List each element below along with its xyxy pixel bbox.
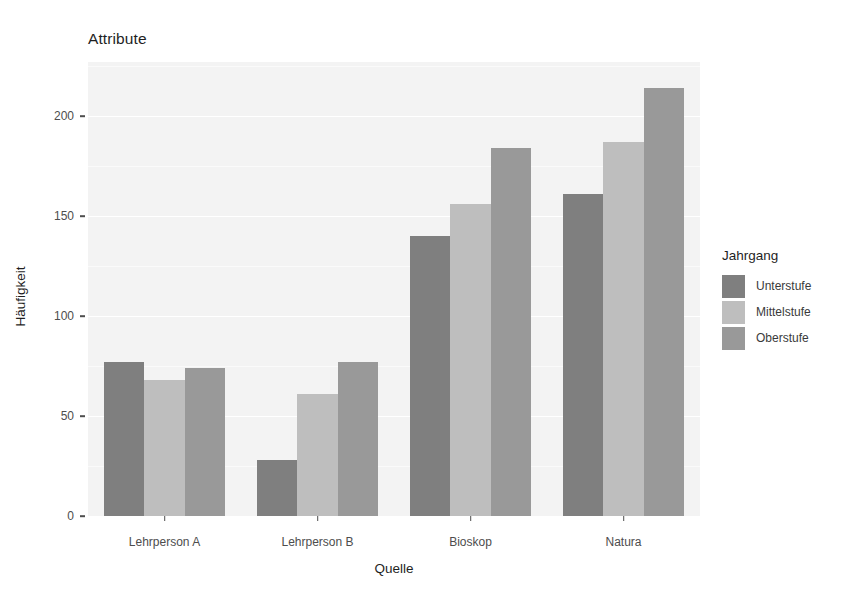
x-axis-title: Quelle: [88, 561, 700, 576]
legend-swatch: [722, 327, 745, 350]
legend-label: Oberstufe: [756, 331, 809, 345]
bar[interactable]: [104, 362, 145, 516]
x-axis-tick-label: Lehrperson B: [281, 535, 353, 549]
gridline-major: [88, 116, 700, 117]
bar-chart-figure: Attribute 050100150200 Häufigkeit Quelle…: [0, 0, 850, 606]
y-axis-tick-label: 50: [61, 409, 74, 423]
legend-swatch: [722, 275, 745, 298]
bar[interactable]: [185, 368, 226, 516]
legend-swatch: [722, 301, 745, 324]
x-axis-tick-label: Natura: [605, 535, 641, 549]
bar[interactable]: [644, 88, 685, 516]
bar[interactable]: [563, 194, 604, 516]
legend-entry[interactable]: Unterstufe: [722, 273, 811, 299]
legend-label: Unterstufe: [756, 279, 811, 293]
y-axis-title: Häufigkeit: [13, 217, 28, 377]
bar[interactable]: [410, 236, 451, 516]
legend-title: Jahrgang: [722, 248, 811, 263]
y-axis-tick-labels: 050100150200: [0, 0, 74, 606]
y-axis-tick-label: 150: [54, 209, 74, 223]
bar[interactable]: [450, 204, 491, 516]
legend-entry[interactable]: Oberstufe: [722, 325, 811, 351]
x-axis-tick-mark: [470, 516, 472, 521]
y-axis-tick-label: 200: [54, 109, 74, 123]
x-axis-tick-label: Lehrperson A: [129, 535, 200, 549]
y-axis-tick-label: 100: [54, 309, 74, 323]
bar[interactable]: [338, 362, 379, 516]
chart-title: Attribute: [88, 30, 147, 48]
legend-label: Mittelstufe: [756, 305, 811, 319]
y-axis-tick-label: 0: [67, 509, 74, 523]
legend-entries: UnterstufeMittelstufeOberstufe: [722, 273, 811, 351]
legend: Jahrgang UnterstufeMittelstufeOberstufe: [722, 248, 811, 351]
x-axis-tick-mark: [317, 516, 319, 521]
bar[interactable]: [297, 394, 338, 516]
bar[interactable]: [257, 460, 298, 516]
y-axis-tick-mark: [80, 415, 85, 417]
y-axis-tick-mark: [80, 315, 85, 317]
x-axis-tick-label: Bioskop: [449, 535, 492, 549]
x-axis-tick-mark: [164, 516, 166, 521]
bar[interactable]: [144, 380, 185, 516]
plot-panel: [88, 62, 700, 516]
bar[interactable]: [491, 148, 532, 516]
x-axis-tick-mark: [623, 516, 625, 521]
y-axis-tick-mark: [80, 115, 85, 117]
y-axis-tick-mark: [80, 515, 85, 517]
bar[interactable]: [603, 142, 644, 516]
y-axis-tick-mark: [80, 215, 85, 217]
legend-entry[interactable]: Mittelstufe: [722, 299, 811, 325]
gridline-minor: [88, 66, 700, 67]
